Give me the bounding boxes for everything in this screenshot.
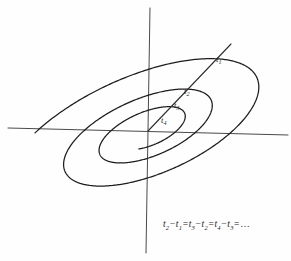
spiral-figure: t1t2t3t4 t2−t1=t3−t2=t4−t3=…: [0, 0, 291, 261]
tick-label-t4: t4: [161, 115, 166, 126]
equal-intervals-equation: t2−t1=t3−t2=t4−t3=…: [163, 219, 251, 231]
